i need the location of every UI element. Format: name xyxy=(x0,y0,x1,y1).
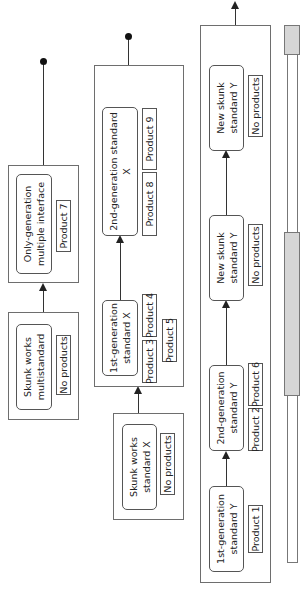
node-title: Skunk works multistandard xyxy=(21,327,47,407)
connector-line xyxy=(226,458,227,486)
arrow-right-icon xyxy=(222,300,230,308)
connector-line xyxy=(138,393,139,413)
standard-x-main-outer-box: 1st-generation standard X Product 3 Prod… xyxy=(94,65,184,387)
node-title: 1st-generation standard Y xyxy=(214,489,240,569)
product-badge: No products xyxy=(160,433,175,495)
product-badge: No products xyxy=(248,224,263,286)
product-badge: Product 7 xyxy=(56,200,71,252)
multistandard-only-node: Only-generation multiple interface xyxy=(16,174,52,274)
connector-line xyxy=(226,307,227,365)
timeline-segment-filled xyxy=(284,232,300,396)
standard-x-gen1-node: 1st-generation standard X xyxy=(102,300,138,376)
node-title: New skunk standard Y xyxy=(214,218,240,298)
standard-y-gen1-node: 1st-generation standard Y xyxy=(209,486,244,572)
standard-y-skunk2-node: New skunk standard Y xyxy=(209,65,244,151)
connector-line xyxy=(235,8,236,25)
product-badge: Product 1 xyxy=(248,505,263,553)
node-title: 2nd-generation standard X xyxy=(107,110,133,233)
standard-x-skunk-outer-box: Skunk works standard X No products xyxy=(113,413,184,520)
standard-y-skunk1-node: New skunk standard Y xyxy=(209,215,244,301)
connector-line xyxy=(43,62,44,165)
product-badge: Product 6 xyxy=(248,363,263,406)
standard-x-skunk-node: Skunk works standard X xyxy=(122,424,157,510)
product-badge: No products xyxy=(56,335,71,395)
node-title: 2nd-generation standard Y xyxy=(214,368,240,448)
product-badge: No products xyxy=(248,75,263,137)
standard-y-gen2-node: 2nd-generation standard Y xyxy=(209,365,244,451)
product-badge: Product 5 xyxy=(162,319,177,362)
connector-line xyxy=(43,290,44,312)
node-title: New skunk standard Y xyxy=(214,68,240,148)
arrow-right-icon xyxy=(222,150,230,158)
node-title: Only-generation multiple interface xyxy=(21,177,47,271)
node-title: 1st-generation standard X xyxy=(107,303,133,373)
multistandard-skunk-outer-box: Skunk works multistandard No products xyxy=(8,312,79,420)
standard-y-main-outer-box: 1st-generation standard Y Product 1 2nd-… xyxy=(200,25,271,583)
connector-line xyxy=(120,242,121,300)
standard-x-gen2-node: 2nd-generation standard X xyxy=(102,107,138,236)
product-badge: Product 2 xyxy=(248,408,263,451)
arrow-right-icon xyxy=(134,386,142,394)
arrow-right-icon xyxy=(231,1,239,9)
product-badge: Product 3 xyxy=(142,340,157,383)
product-badge: Product 4 xyxy=(142,294,157,337)
arrow-right-icon xyxy=(222,451,230,459)
product-badge: Product 8 xyxy=(142,172,157,236)
arrow-right-icon xyxy=(39,283,47,291)
node-title: Skunk works standard X xyxy=(127,427,153,507)
multistandard-skunk-node: Skunk works multistandard xyxy=(16,324,52,410)
arrow-right-icon xyxy=(116,235,124,243)
end-dot-icon xyxy=(125,33,132,40)
timeline-segment-filled xyxy=(284,25,300,55)
standards-evolution-diagram: Skunk works multistandard No products On… xyxy=(0,0,301,600)
connector-line xyxy=(128,37,129,65)
product-badge: Product 9 xyxy=(142,108,157,170)
connector-line xyxy=(226,157,227,215)
end-dot-icon xyxy=(40,58,47,65)
multistandard-only-outer-box: Only-generation multiple interface Produ… xyxy=(8,165,79,283)
